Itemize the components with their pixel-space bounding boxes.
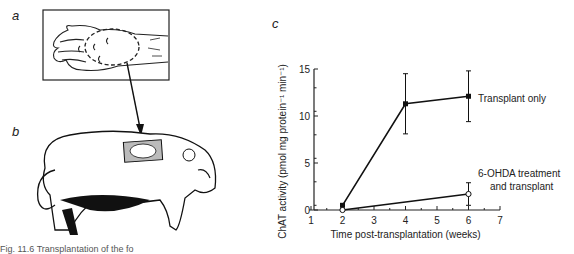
x-tick-label: 4 (403, 215, 409, 226)
x-tick-label: 2 (340, 215, 346, 226)
data-point (466, 191, 471, 196)
data-point (403, 101, 408, 106)
series-label-transplant-only: Transplant only (478, 93, 546, 104)
x-tick-label: 5 (434, 215, 440, 226)
x-tick-label: 6 (466, 215, 472, 226)
x-tick-label: 3 (371, 215, 377, 226)
illustration (0, 0, 280, 251)
y-tick-label: 5 (304, 158, 310, 169)
y-tick-label: 10 (299, 111, 311, 122)
x-tick-label: 1 (308, 215, 314, 226)
y-tick-label: 15 (299, 64, 311, 75)
x-tick-label: 7 (497, 215, 503, 226)
x-axis-label: Time post-transplantation (weeks) (330, 229, 480, 240)
chat-activity-chart: 0510151234567Time post-transplantation (… (274, 0, 574, 251)
series-label-6ohda: and transplant (490, 181, 554, 192)
data-point (340, 207, 345, 212)
y-axis-label: ChAT activity (pmol mg protein⁻¹ min⁻¹) (277, 64, 288, 239)
series-label-6ohda: 6-OHDA treatment (478, 168, 560, 179)
data-point (466, 94, 471, 99)
figure-caption: Fig. 11.6 Transplantation of the fo (0, 244, 133, 254)
